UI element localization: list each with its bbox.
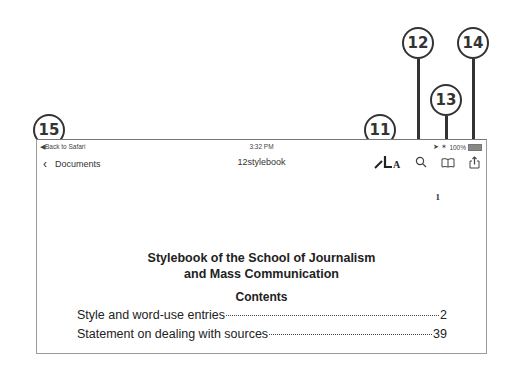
battery-icon	[468, 144, 482, 151]
contents-heading: Contents	[37, 290, 486, 304]
ipad-screen: ◀Back to Safari 3:32 PM ➤ ✶ 100% ‹ Docum…	[36, 139, 487, 354]
location-icon: ➤	[433, 143, 439, 151]
table-of-contents: Style and word-use entries 2 Statement o…	[77, 308, 447, 346]
toc-entry-page: 2	[440, 308, 447, 322]
markup-icon[interactable]: A	[373, 155, 401, 169]
toc-entry-label: Statement on dealing with sources	[77, 327, 268, 341]
callout-12: 12	[402, 27, 434, 59]
callout-13: 13	[430, 84, 462, 116]
bookmarks-book-icon[interactable]	[441, 157, 455, 168]
toc-entry-page: 39	[433, 327, 447, 341]
toc-entry[interactable]: Style and word-use entries 2	[77, 308, 447, 327]
status-bar: ◀Back to Safari 3:32 PM ➤ ✶ 100%	[37, 140, 486, 152]
heading-line-2: and Mass Communication	[37, 266, 486, 282]
svg-text:A: A	[393, 159, 401, 169]
battery-percent: 100%	[449, 144, 466, 151]
toolbar-icons: A	[373, 155, 480, 169]
status-indicators: ➤ ✶ 100%	[433, 143, 482, 151]
search-icon[interactable]	[415, 156, 427, 168]
bluetooth-icon: ✶	[441, 143, 447, 151]
toc-leader-dots	[269, 334, 432, 335]
toc-entry[interactable]: Statement on dealing with sources 39	[77, 327, 447, 346]
nav-bar: ‹ Documents 12stylebook A	[37, 153, 486, 173]
callout-14: 14	[457, 27, 489, 59]
share-icon[interactable]	[469, 156, 480, 169]
toc-entry-label: Style and word-use entries	[77, 308, 225, 322]
document-heading: Stylebook of the School of Journalism an…	[37, 250, 486, 282]
heading-line-1: Stylebook of the School of Journalism	[37, 250, 486, 266]
status-time: 3:32 PM	[37, 143, 486, 150]
page-number: 1	[436, 192, 441, 202]
toc-leader-dots	[226, 315, 439, 316]
